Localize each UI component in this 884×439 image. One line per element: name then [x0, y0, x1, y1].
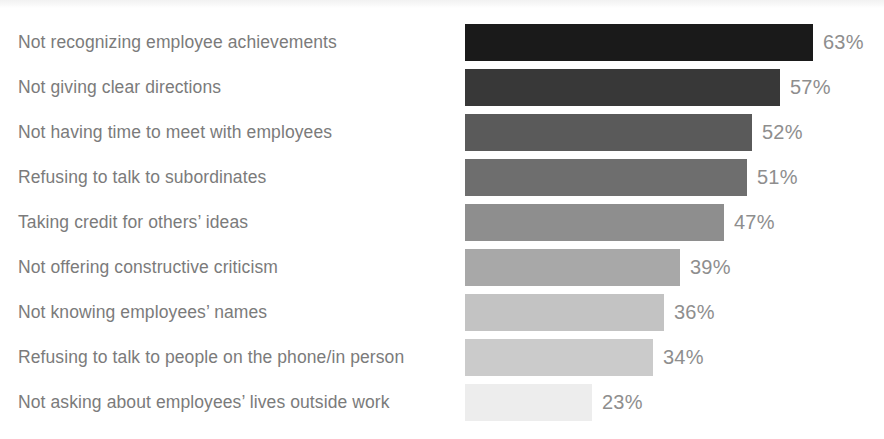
category-label: Refusing to talk to people on the phone/…: [18, 335, 404, 380]
bar-track: [465, 65, 780, 110]
value-label: 34%: [663, 335, 704, 380]
bar: [465, 114, 752, 151]
bar-track: [465, 155, 747, 200]
bar: [465, 249, 680, 286]
category-label: Not giving clear directions: [18, 65, 221, 110]
bar: [465, 294, 664, 331]
chart-row: Not asking about employees’ lives outsid…: [0, 380, 884, 425]
bar-track: [465, 335, 653, 380]
chart-row: Not knowing employees’ names 36%: [0, 290, 884, 335]
chart-row: Not having time to meet with employees 5…: [0, 110, 884, 155]
value-label: 51%: [757, 155, 798, 200]
value-label: 52%: [762, 110, 803, 155]
category-label: Not recognizing employee achievements: [18, 20, 337, 65]
value-label: 23%: [602, 380, 643, 425]
bar-track: [465, 20, 813, 65]
category-label: Not asking about employees’ lives outsid…: [18, 380, 390, 425]
value-label: 36%: [674, 290, 715, 335]
value-label: 63%: [823, 20, 864, 65]
value-label: 47%: [734, 200, 775, 245]
bar-track: [465, 245, 680, 290]
chart-row: Not offering constructive criticism 39%: [0, 245, 884, 290]
category-label: Not knowing employees’ names: [18, 290, 267, 335]
chart-row: Refusing to talk to people on the phone/…: [0, 335, 884, 380]
chart-row: Not recognizing employee achievements 63…: [0, 20, 884, 65]
bar: [465, 69, 780, 106]
bar: [465, 384, 592, 421]
bar-track: [465, 200, 724, 245]
category-label: Not offering constructive criticism: [18, 245, 278, 290]
value-label: 39%: [690, 245, 731, 290]
chart-plot-area: Not recognizing employee achievements 63…: [0, 20, 884, 439]
chart-row: Taking credit for others’ ideas 47%: [0, 200, 884, 245]
bar: [465, 159, 747, 196]
bar: [465, 339, 653, 376]
category-label: Refusing to talk to subordinates: [18, 155, 266, 200]
bar-track: [465, 110, 752, 155]
category-label: Taking credit for others’ ideas: [18, 200, 248, 245]
bar-track: [465, 380, 592, 425]
category-label: Not having time to meet with employees: [18, 110, 332, 155]
bar: [465, 204, 724, 241]
value-label: 57%: [790, 65, 831, 110]
bar: [465, 24, 813, 61]
chart-row: Not giving clear directions 57%: [0, 65, 884, 110]
bar-chart: Not recognizing employee achievements 63…: [0, 0, 884, 439]
chart-row: Refusing to talk to subordinates 51%: [0, 155, 884, 200]
page-edge-band: [0, 0, 884, 8]
bar-track: [465, 290, 664, 335]
